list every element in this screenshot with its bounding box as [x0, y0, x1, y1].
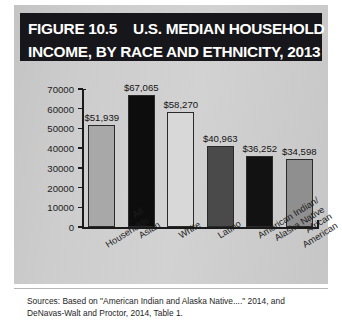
figure-title-main: U.S. MEDIAN HOUSEHOLD — [133, 20, 324, 37]
figure-title-bar: FIGURE 10.5U.S. MEDIAN HOUSEHOLD INCOME,… — [20, 13, 322, 61]
sources-line-1: Sources: Based on "American Indian and A… — [27, 296, 327, 308]
y-axis-tick-label: 0 — [69, 222, 74, 233]
y-axis-tick — [78, 187, 83, 189]
y-axis-top-cap — [82, 89, 86, 91]
y-axis-tick-label: 50000 — [47, 123, 74, 134]
sources-line-2: DeNavas-Walt and Proctor, 2014, Table 1. — [27, 308, 327, 320]
y-axis-tick — [78, 226, 83, 228]
bar — [246, 156, 273, 227]
sources-divider — [14, 288, 328, 289]
figure-page: FIGURE 10.5U.S. MEDIAN HOUSEHOLD INCOME,… — [0, 0, 342, 329]
bar-value-label: $36,252 — [242, 143, 277, 154]
y-axis-tick-label: 10000 — [47, 202, 74, 213]
y-axis-tick — [78, 108, 83, 110]
bar-value-label: $58,270 — [163, 99, 198, 110]
y-axis-tick-label: 70000 — [47, 84, 74, 95]
y-axis-tick — [78, 88, 83, 90]
y-axis-tick — [78, 207, 83, 209]
y-axis-tick — [78, 147, 83, 149]
bar-value-label: $40,963 — [203, 133, 238, 144]
figure-title-line-1: FIGURE 10.5U.S. MEDIAN HOUSEHOLD — [28, 17, 314, 40]
plot-area: 010000200003000040000500006000070000 $51… — [82, 89, 319, 227]
bar-value-label: $67,065 — [124, 82, 159, 93]
bar — [167, 112, 194, 227]
figure-number: FIGURE 10.5 — [28, 20, 117, 37]
y-axis-tick — [78, 128, 83, 130]
bar-value-label: $51,939 — [84, 112, 119, 123]
y-axis-tick — [78, 167, 83, 169]
bar-value-label: $34,598 — [282, 146, 317, 157]
bar — [207, 146, 234, 227]
figure-panel: FIGURE 10.5U.S. MEDIAN HOUSEHOLD INCOME,… — [14, 5, 328, 284]
y-axis-tick-label: 30000 — [47, 162, 74, 173]
y-axis-tick-label: 40000 — [47, 143, 74, 154]
figure-title-line-2: INCOME, BY RACE AND ETHNICITY, 2013 — [28, 40, 314, 63]
bar — [128, 95, 155, 227]
y-axis-tick-label: 20000 — [47, 182, 74, 193]
y-axis-tick-label: 60000 — [47, 103, 74, 114]
bar — [88, 125, 115, 227]
sources-note: Sources: Based on "American Indian and A… — [27, 296, 327, 319]
